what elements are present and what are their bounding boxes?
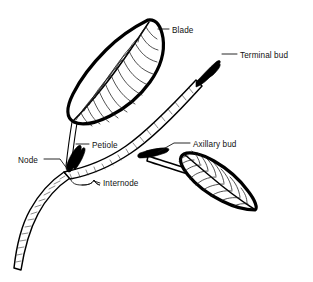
terminal-bud [196, 61, 220, 87]
axillary-bud [138, 148, 169, 158]
lower-leaf [179, 151, 256, 210]
label-petiole: Petiole [92, 141, 118, 150]
leader-node [44, 159, 68, 170]
label-terminal-bud: Terminal bud [240, 51, 288, 60]
label-internode: Internode [103, 179, 139, 188]
label-axillary-bud: Axillary bud [193, 140, 237, 149]
leaf-structure-diagram: Blade Terminal bud Petiole Axillary bud … [0, 0, 313, 282]
plant-diagram-canvas: Blade Terminal bud Petiole Axillary bud … [0, 0, 313, 282]
label-node: Node [18, 156, 38, 165]
label-blade: Blade [172, 26, 194, 35]
upper-leaf [68, 20, 164, 126]
stem-lower-segment [14, 172, 70, 270]
